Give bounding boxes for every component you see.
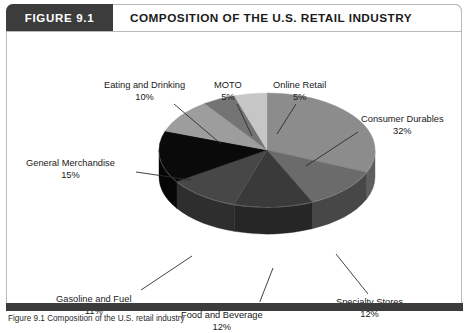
pie-slice-label: General Merchandise15% bbox=[26, 158, 115, 181]
figure-number-box: FIGURE 9.1 bbox=[6, 4, 113, 31]
pie-slice-label-name: MOTO bbox=[214, 80, 242, 90]
pie-slice-label: Eating and Drinking10% bbox=[104, 80, 185, 103]
pie-slice-label-name: Eating and Drinking bbox=[104, 80, 185, 90]
source-caption: Figure 9.1 Composition of the U.S. retai… bbox=[8, 314, 458, 325]
pie-slice-label-percent: 10% bbox=[104, 92, 185, 104]
pie-slice-label-name: General Merchandise bbox=[26, 158, 115, 168]
pie-slice-label: Consumer Durables32% bbox=[361, 114, 444, 137]
figure-title-text: COMPOSITION OF THE U.S. RETAIL INDUSTRY bbox=[113, 11, 412, 25]
pie-slice-label-percent: 15% bbox=[26, 170, 115, 182]
pie-slice-label-name: Consumer Durables bbox=[361, 114, 444, 124]
bottom-bar bbox=[6, 303, 463, 311]
figure-number-label: FIGURE 9.1 bbox=[25, 12, 95, 24]
pie-slice-label: MOTO5% bbox=[214, 80, 242, 103]
pie-slice-label: Online Retail5% bbox=[273, 80, 326, 103]
pie-slice-label-percent: 32% bbox=[361, 126, 444, 138]
pie-slice-label-percent: 5% bbox=[214, 92, 242, 104]
figure-title-box: COMPOSITION OF THE U.S. RETAIL INDUSTRY bbox=[113, 4, 462, 31]
pie-slice-label-percent: 5% bbox=[273, 92, 326, 104]
figure-header: FIGURE 9.1 COMPOSITION OF THE U.S. RETAI… bbox=[6, 4, 462, 31]
pie-top-faces bbox=[159, 93, 375, 207]
pie-slice-label-name: Online Retail bbox=[273, 80, 326, 90]
pie-chart: Consumer Durables32%Specialty Stores12%F… bbox=[6, 32, 462, 302]
